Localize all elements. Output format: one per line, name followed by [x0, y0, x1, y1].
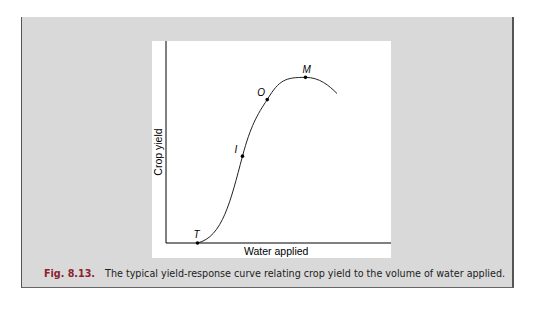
yield-response-diagram: TIOM — [152, 41, 391, 258]
figure-caption: Fig. 8.13.The typical yield-response cur… — [44, 268, 505, 279]
x-axis-label: Water applied — [244, 245, 308, 257]
point-M — [304, 76, 308, 80]
yield-curve — [198, 77, 338, 243]
figure-number: Fig. 8.13. — [44, 268, 95, 279]
point-O — [265, 98, 269, 102]
point-label-M: M — [303, 64, 312, 75]
y-axis-label: Crop yield — [152, 112, 164, 192]
point-label-O: O — [257, 87, 265, 98]
caption-text: The typical yield-response curve relatin… — [105, 268, 505, 279]
point-T — [196, 241, 200, 245]
point-I — [241, 154, 245, 158]
point-label-T: T — [194, 229, 201, 240]
point-label-I: I — [235, 144, 238, 155]
